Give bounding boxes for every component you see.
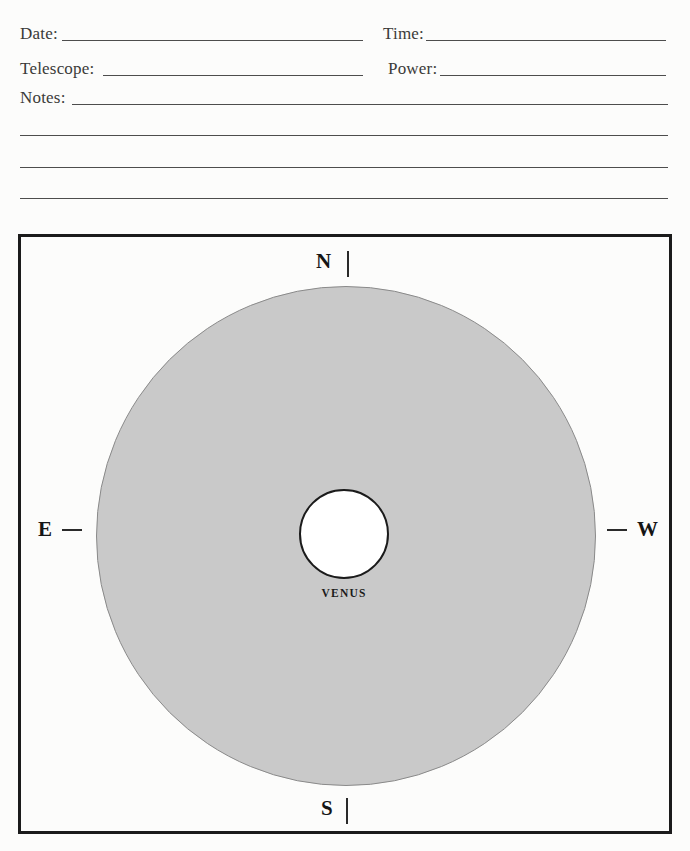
telescope-label: Telescope: xyxy=(20,59,94,79)
compass-east-label: E xyxy=(38,519,52,540)
observation-log-page: Date: Time: Telescope: Power: Notes: VEN… xyxy=(0,0,690,851)
north-tick-mark xyxy=(347,251,349,277)
power-input-line[interactable] xyxy=(440,75,666,76)
notes-label: Notes: xyxy=(20,88,66,108)
west-tick-mark xyxy=(607,529,627,531)
notes-extra-line-1[interactable] xyxy=(20,135,668,136)
time-label: Time: xyxy=(383,24,424,44)
date-input-line[interactable] xyxy=(62,40,363,41)
telescope-input-line[interactable] xyxy=(103,75,363,76)
east-tick-mark xyxy=(62,529,82,531)
power-label: Power: xyxy=(388,59,437,79)
compass-west-label: W xyxy=(637,519,658,540)
notes-extra-line-3[interactable] xyxy=(20,198,668,199)
time-input-line[interactable] xyxy=(426,40,666,41)
notes-extra-line-2[interactable] xyxy=(20,167,668,168)
planet-disk xyxy=(299,489,389,579)
south-tick-mark xyxy=(346,798,348,824)
notes-input-line[interactable] xyxy=(72,104,668,105)
planet-label: VENUS xyxy=(284,587,404,599)
compass-south-label: S xyxy=(321,798,333,819)
compass-north-label: N xyxy=(316,251,331,272)
date-label: Date: xyxy=(20,24,58,44)
